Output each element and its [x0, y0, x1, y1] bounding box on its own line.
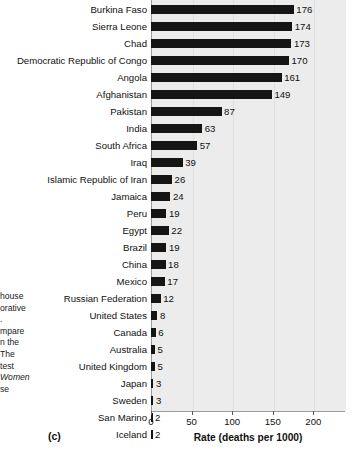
bar-value-label: 161 — [282, 69, 301, 86]
bar-category-label: Islamic Republic of Iran — [47, 171, 151, 188]
panel-letter: (c) — [48, 430, 61, 442]
bar-value-label: 176 — [294, 1, 313, 18]
bar-category-label: San Marino — [98, 409, 151, 426]
bar-category-label: Jamaica — [111, 188, 151, 205]
bar — [151, 277, 165, 286]
bar-value-label: 18 — [166, 256, 179, 273]
bar-value-label: 170 — [289, 52, 308, 69]
bar-row: Brazil19 — [0, 239, 357, 256]
x-tick-mark — [192, 411, 193, 415]
bar — [151, 90, 272, 99]
bar-value-label: 57 — [197, 137, 210, 154]
bar-category-label: India — [126, 120, 151, 137]
bar-value-label: 3 — [153, 392, 161, 409]
bar-row: South Africa57 — [0, 137, 357, 154]
bar-category-label: Pakistan — [110, 103, 151, 120]
x-tick-mark — [313, 411, 314, 415]
bar-category-label: Sierra Leone — [92, 18, 151, 35]
bar — [151, 124, 202, 133]
bar-category-label: Chad — [124, 35, 151, 52]
bar-row: Sierra Leone174 — [0, 18, 357, 35]
bar-value-label: 3 — [153, 375, 161, 392]
bar — [151, 141, 197, 150]
bar-category-label: Burkina Faso — [90, 1, 151, 18]
bar-category-label: Peru — [127, 205, 151, 222]
bar-row: Chad173 — [0, 35, 357, 52]
caption-line: orative — [0, 303, 34, 315]
x-tick-mark — [151, 411, 152, 415]
bar-category-label: United Kingdom — [79, 358, 151, 375]
bar-value-label: 5 — [155, 358, 163, 375]
bar-category-label: Democratic Republic of Congo — [17, 52, 151, 69]
caption-line: The — [0, 349, 34, 361]
bar — [151, 294, 161, 303]
bar-row: Jamaica24 — [0, 188, 357, 205]
bar-category-label: Australia — [110, 341, 151, 358]
bar-value-label: 5 — [155, 341, 163, 358]
caption-line: Women — [0, 372, 34, 384]
x-tick-mark — [232, 411, 233, 415]
bar-value-label: 19 — [166, 239, 179, 256]
bar-row: Japan3 — [0, 375, 357, 392]
bar-value-label: 8 — [157, 307, 165, 324]
bar — [151, 226, 169, 235]
bar-category-label: Mexico — [117, 273, 151, 290]
bar-value-label: 63 — [202, 120, 215, 137]
x-axis-line — [151, 411, 345, 412]
bar-category-label: Russian Federation — [64, 290, 151, 307]
bar-category-label: Japan — [121, 375, 151, 392]
bar-value-label: 26 — [172, 171, 185, 188]
bar-rows: Burkina Faso176Sierra Leone174Chad173Dem… — [0, 0, 357, 411]
x-tick-label: 100 — [224, 416, 240, 427]
bar — [151, 260, 166, 269]
bar — [151, 158, 183, 167]
caption-line: test — [0, 361, 34, 373]
bar-row: Sweden3 — [0, 392, 357, 409]
caption-line: n the — [0, 337, 34, 349]
x-axis: 050100150200 — [151, 411, 345, 451]
bar-value-label: 174 — [292, 18, 311, 35]
bar-category-label: Iraq — [130, 154, 151, 171]
bar — [151, 39, 291, 48]
bar-category-label: United States — [89, 307, 151, 324]
bar-category-label: Brazil — [123, 239, 151, 256]
x-tick-label: 0 — [148, 416, 153, 427]
bar-row: China18 — [0, 256, 357, 273]
bar — [151, 73, 282, 82]
caption-line: mpare — [0, 326, 34, 338]
bar-row: Australia5 — [0, 341, 357, 358]
bar — [151, 5, 294, 14]
bar-value-label: 24 — [170, 188, 183, 205]
bar-value-label: 149 — [272, 86, 291, 103]
x-tick-label: 50 — [186, 416, 197, 427]
bar-row: Iraq39 — [0, 154, 357, 171]
bar-category-label: Angola — [117, 69, 151, 86]
caption-line: . — [0, 314, 34, 326]
bar-value-label: 19 — [166, 205, 179, 222]
bar-row: India63 — [0, 120, 357, 137]
x-tick-mark — [273, 411, 274, 415]
caption-line: se — [0, 384, 34, 396]
bar-value-label: 173 — [291, 35, 310, 52]
bar-category-label: Sweden — [112, 392, 151, 409]
bar-row: Canada6 — [0, 324, 357, 341]
bar-row: Burkina Faso176 — [0, 1, 357, 18]
bar-row: Democratic Republic of Congo170 — [0, 52, 357, 69]
bar-value-label: 6 — [156, 324, 164, 341]
bar-row: United States8 — [0, 307, 357, 324]
bar-chart: Burkina Faso176Sierra Leone174Chad173Dem… — [0, 0, 357, 451]
x-tick-label: 150 — [265, 416, 281, 427]
bar-row: Peru19 — [0, 205, 357, 222]
bar — [151, 243, 166, 252]
bar-value-label: 17 — [165, 273, 178, 290]
caption-text-fragment: houseorative.mparen theThetestWomense — [0, 291, 34, 395]
bar-category-label: China — [122, 256, 151, 273]
bar-category-label: Canada — [113, 324, 151, 341]
bar — [151, 192, 170, 201]
bar — [151, 22, 292, 31]
bar-value-label: 87 — [222, 103, 235, 120]
bar-category-label: Egypt — [122, 222, 151, 239]
bar-row: Russian Federation12 — [0, 290, 357, 307]
x-tick-label: 200 — [305, 416, 321, 427]
x-axis-title: Rate (deaths per 1000) — [151, 432, 345, 443]
